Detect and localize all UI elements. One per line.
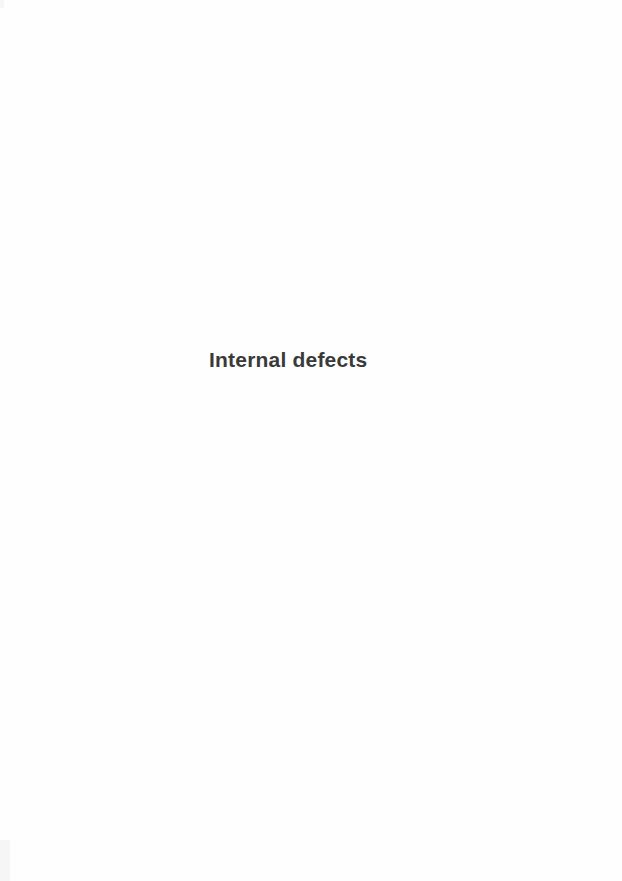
scan-artifact-top-edge — [0, 0, 4, 8]
section-title: Internal defects — [209, 346, 367, 374]
scan-artifact-left-edge — [0, 840, 10, 881]
document-page: Internal defects — [0, 0, 622, 881]
